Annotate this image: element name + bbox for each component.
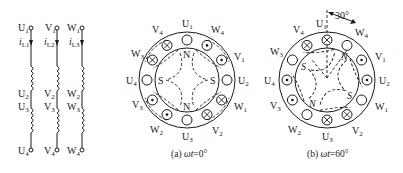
pole-s-2: S	[347, 90, 352, 101]
stator-diagram-b: 30° N N S S U1 V4 W4 W3	[264, 10, 390, 160]
label-u1: U1	[316, 18, 327, 31]
terminal-u4	[29, 148, 33, 152]
terminal-label-v1: V1	[45, 22, 56, 35]
label-v1: V1	[234, 51, 245, 64]
slot-v4	[162, 40, 172, 50]
label-u2: U2	[379, 75, 390, 88]
terminal-label-v2: V2	[44, 88, 55, 101]
label-u4: U4	[126, 75, 137, 88]
pole-n-2: N	[308, 98, 317, 109]
pole-s-1: S	[301, 61, 306, 72]
pole-s-left: S	[158, 75, 164, 86]
label-v4: V4	[152, 24, 163, 37]
winding-u: U1 iL1 U2 U3 U4	[18, 22, 33, 158]
angle-label: 30°	[335, 10, 349, 21]
slot-u3	[182, 115, 192, 125]
terminal-w1	[80, 26, 84, 30]
slot-w2	[302, 110, 312, 120]
label-w3: W3	[270, 46, 283, 59]
label-u3: U3	[322, 131, 333, 144]
slot-u4	[142, 75, 152, 85]
winding-circuit: U1 iL1 U2 U3 U4 V1 iL2 V2 V3	[18, 22, 84, 158]
slot-v2	[342, 110, 352, 120]
arrow-right-icon	[350, 19, 356, 24]
terminal-label-u1: U1	[18, 22, 29, 35]
label-v3: V3	[132, 99, 143, 112]
label-w2: W2	[288, 124, 301, 137]
terminal-label-w3: W3	[67, 101, 80, 114]
label-v3: V3	[270, 100, 281, 113]
label-u4: U4	[264, 75, 275, 88]
caption-b: (b) ωt=60°	[307, 149, 349, 160]
label-v1: V1	[375, 51, 386, 64]
current-arrow-icon	[29, 40, 33, 46]
pole-s-right: S	[210, 75, 216, 86]
slot-u2	[222, 75, 232, 85]
terminal-label-w1: W1	[67, 22, 80, 35]
terminal-w4	[80, 148, 84, 152]
label-w2: W2	[150, 124, 163, 137]
winding-w: W1 iL3 W2 W3 W4	[67, 22, 84, 158]
slot-w2	[162, 110, 172, 120]
slot-w3	[287, 55, 297, 65]
slot-u2	[362, 75, 372, 85]
motor-winding-figure: U1 iL1 U2 U3 U4 V1 iL2 V2 V3	[0, 0, 403, 173]
slot-top	[182, 35, 192, 45]
label-w1: W1	[375, 101, 388, 114]
label-w4: W4	[211, 24, 224, 37]
terminal-label-w4: W4	[67, 145, 80, 158]
slot-w1	[357, 95, 367, 105]
slot-top	[322, 35, 332, 45]
slot-v3	[287, 95, 297, 105]
pole-n-top: N	[183, 49, 190, 60]
slot-v3	[147, 95, 157, 105]
label-v4: V4	[293, 24, 304, 37]
current-arrow-icon	[80, 40, 84, 46]
caption-a: (a) ωt=0°	[171, 149, 207, 160]
slot-w1	[217, 95, 227, 105]
terminal-label-u3: U3	[18, 101, 29, 114]
terminal-label-v4: V4	[44, 145, 55, 158]
slot-w4	[202, 40, 212, 50]
coil-icon	[57, 108, 59, 133]
terminal-label-u2: U2	[18, 88, 29, 101]
terminal-label-w2: W2	[67, 88, 80, 101]
stator-outer-circle	[139, 32, 235, 128]
slot-u3	[322, 115, 332, 125]
slot-u4	[282, 75, 292, 85]
pole-n-1: N	[340, 51, 349, 62]
terminal-u1	[29, 26, 33, 30]
slot-w4	[342, 40, 352, 50]
pole-n-bottom: N	[183, 101, 190, 112]
coil-icon	[57, 66, 59, 91]
terminal-v4	[55, 148, 59, 152]
coil-icon	[82, 108, 84, 133]
label-v2: V2	[352, 125, 363, 138]
coil-icon	[82, 66, 84, 91]
label-w3: W3	[131, 48, 144, 61]
coil-icon	[31, 66, 33, 91]
label-u1: U1	[182, 18, 193, 31]
slot-v2	[202, 110, 212, 120]
current-label-il3: iL3	[69, 36, 80, 49]
slot-v1	[357, 55, 367, 65]
slot-v1	[217, 55, 227, 65]
label-v2: V2	[212, 125, 223, 138]
slot-v4	[302, 40, 312, 50]
terminal-label-v3: V3	[44, 101, 55, 114]
label-w4: W4	[355, 27, 368, 40]
terminal-label-u4: U4	[18, 145, 29, 158]
current-label-il2: iL2	[44, 36, 55, 49]
current-arrow-icon	[55, 40, 59, 46]
winding-v: V1 iL2 V2 V3 V4	[44, 22, 59, 158]
stator-diagram-a: N N S S U1 V4 W4 W3 V1 U4 U2 V3 W1 W2 V2…	[126, 18, 249, 160]
label-u3: U3	[182, 131, 193, 144]
coil-icon	[31, 108, 33, 133]
current-label-il1: iL1	[19, 36, 30, 49]
label-w1: W1	[234, 101, 247, 114]
slot-w3	[147, 55, 157, 65]
flux-lines	[283, 37, 372, 123]
label-u2: U2	[238, 75, 249, 88]
